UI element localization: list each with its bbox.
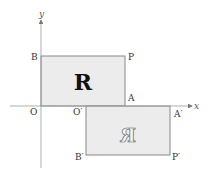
label-p-prime: P′ <box>172 152 180 162</box>
label-b-prime: B′ <box>75 152 84 162</box>
label-a-prime: A′ <box>173 109 183 119</box>
diagram-canvas: y x R R B P O A O′ A′ B′ P′ <box>0 0 211 175</box>
letter-r-reflected: R <box>120 124 136 146</box>
x-axis-label: x <box>194 101 199 111</box>
label-b: B <box>31 52 38 62</box>
label-p: P <box>128 52 134 62</box>
y-axis-label: y <box>38 9 45 19</box>
label-o-prime: O′ <box>73 107 82 117</box>
letter-r: R <box>74 69 93 95</box>
label-a: A <box>127 93 135 103</box>
label-o: O <box>30 107 37 117</box>
